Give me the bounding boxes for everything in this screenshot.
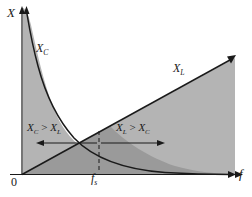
capacitive-reactance-curve-label: XC xyxy=(36,42,48,57)
inductive-region-label: XL > XC xyxy=(116,122,150,136)
origin-label: 0 xyxy=(11,176,17,188)
y-axis-label: X xyxy=(7,6,15,19)
inductive-reactance-curve-label: XL xyxy=(173,62,185,77)
reactance-vs-frequency-figure: X f 0 fs XC XL XC > XL XL > XC xyxy=(0,0,252,197)
resonant-frequency-tick-label: fs xyxy=(91,172,97,187)
figure-canvas xyxy=(0,0,252,197)
capacitive-region-label: XC > XL xyxy=(27,122,61,136)
x-axis-label: f xyxy=(239,167,243,180)
